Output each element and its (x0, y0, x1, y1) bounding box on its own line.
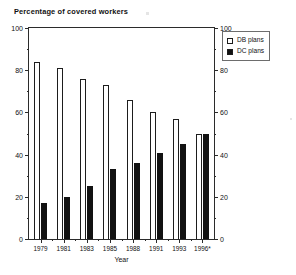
bar-db-1981 (57, 68, 63, 239)
chart-legend: DB plans DC plans (222, 31, 270, 61)
y-axis-label-left: 80 (15, 67, 23, 74)
y-axis-label-left: 100 (11, 25, 23, 32)
bar-dc-1985 (110, 169, 116, 239)
x-axis-label: 1985 (103, 246, 117, 252)
filled-square-swatch-icon (227, 49, 233, 55)
y-axis-minor-tick-left (27, 91, 29, 92)
y-axis-label-left: 60 (15, 109, 23, 116)
x-axis-tick (133, 239, 134, 243)
bar-db-1985 (103, 85, 109, 239)
bar-db-1991 (150, 112, 156, 239)
x-axis-label: 1983 (80, 246, 94, 252)
y-axis-tick-right (214, 70, 218, 71)
x-axis-label: 1993 (172, 246, 186, 252)
y-axis-minor-tick-right (214, 134, 216, 135)
y-axis-minor-tick-left (27, 134, 29, 135)
legend-item-dc[interactable]: DC plans (227, 47, 264, 56)
y-axis-label-left: 40 (15, 151, 23, 158)
x-axis-tick (202, 239, 203, 243)
y-axis-label-right: 20 (220, 193, 228, 200)
y-axis-tick-right (214, 239, 218, 240)
y-axis-minor-tick-right (214, 49, 216, 50)
y-axis-tick-left (25, 197, 29, 198)
y-axis-label-right: 80 (220, 67, 228, 74)
y-axis-minor-tick-right (214, 176, 216, 177)
x-axis-minor-tick (191, 239, 192, 241)
bar-dc-1979 (41, 203, 47, 239)
x-axis-label: 1979 (33, 246, 47, 252)
bar-dc-1993 (180, 144, 186, 239)
bar-db-1993 (173, 119, 179, 239)
y-axis-label-right: 40 (220, 151, 228, 158)
y-axis-tick-right (214, 28, 218, 29)
y-axis-tick-right (214, 155, 218, 156)
bar-dc-1983 (87, 186, 93, 239)
x-axis-tick (41, 239, 42, 243)
y-axis-tick-right (214, 197, 218, 198)
bar-db-1983 (80, 79, 86, 239)
y-axis-minor-tick-left (27, 49, 29, 50)
x-axis-tick (110, 239, 111, 243)
y-axis-tick-left (25, 112, 29, 113)
bar-dc-1981 (64, 197, 70, 239)
y-axis-tick-right (214, 112, 218, 113)
y-axis-minor-tick-right (214, 218, 216, 219)
bar-db-1979 (34, 62, 40, 239)
x-axis-minor-tick (168, 239, 169, 241)
legend-item-db[interactable]: DB plans (227, 36, 264, 45)
x-axis-minor-tick (145, 239, 146, 241)
x-axis-label: 1988 (126, 246, 140, 252)
y-axis-label-right: 0 (220, 236, 224, 243)
x-axis-minor-tick (122, 239, 123, 241)
x-axis-label: 1991 (149, 246, 163, 252)
y-axis-tick-left (25, 70, 29, 71)
x-axis-tick (64, 239, 65, 243)
x-axis-tick (179, 239, 180, 243)
legend-label: DB plans (237, 37, 264, 44)
bar-dc-1988 (134, 163, 140, 239)
bar-dc-1996 (203, 134, 209, 240)
x-axis-tick (156, 239, 157, 243)
scan-artifact (290, 118, 292, 120)
y-axis-minor-tick-right (214, 91, 216, 92)
open-square-swatch-icon (227, 38, 233, 44)
x-axis-title: Year (28, 256, 215, 263)
y-axis-tick-left (25, 28, 29, 29)
y-axis-label-right: 60 (220, 109, 228, 116)
y-axis-minor-tick-left (27, 176, 29, 177)
x-axis-minor-tick (52, 239, 53, 241)
y-axis-tick-left (25, 155, 29, 156)
bar-db-1988 (127, 100, 133, 239)
scan-artifact (146, 12, 149, 15)
x-axis-label: 1996* (194, 246, 211, 252)
chart-figure: Percentage of covered workers 0020204040… (0, 0, 296, 275)
chart-title: Percentage of covered workers (14, 7, 128, 16)
x-axis-minor-tick (98, 239, 99, 241)
y-axis-label-left: 0 (19, 236, 23, 243)
x-axis-label: 1981 (57, 246, 71, 252)
x-axis-minor-tick (75, 239, 76, 241)
y-axis-minor-tick-left (27, 218, 29, 219)
x-axis-tick (87, 239, 88, 243)
bar-dc-1991 (157, 153, 163, 240)
y-axis-tick-left (25, 239, 29, 240)
plot-area: 0020204040606080801001001979198119831985… (28, 27, 215, 240)
y-axis-label-left: 20 (15, 193, 23, 200)
legend-label: DC plans (237, 48, 264, 55)
bar-db-1996 (196, 134, 202, 240)
